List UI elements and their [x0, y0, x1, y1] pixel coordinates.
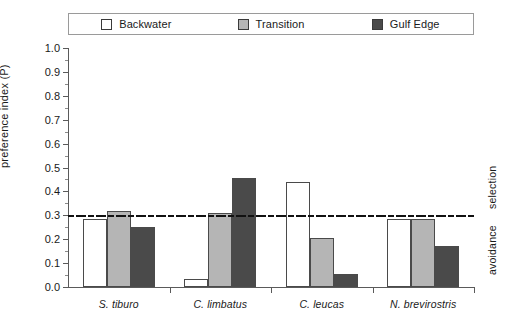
bar-group — [373, 48, 475, 287]
y-tick-major — [63, 287, 68, 288]
legend-item-transition: Transition — [204, 18, 339, 30]
bar-group — [271, 48, 373, 287]
annotation-avoidance: avoidance — [486, 226, 498, 276]
bar-transition — [310, 238, 334, 287]
bar-gulf-edge — [131, 227, 155, 287]
legend-label-gulf-edge: Gulf Edge — [390, 18, 440, 30]
bar-gulf-edge — [334, 274, 358, 287]
y-tick-label: 0.4 — [45, 185, 60, 197]
y-tick-label: 1.0 — [45, 42, 60, 54]
bar-backwater — [184, 279, 208, 287]
annotation-selection: selection — [486, 166, 498, 209]
legend-label-transition: Transition — [256, 18, 305, 30]
bar-group — [170, 48, 272, 287]
y-tick-label: 0.2 — [45, 233, 60, 245]
x-axis-group-label: N. brevirostris — [390, 298, 456, 310]
x-tick — [474, 288, 475, 293]
legend-item-backwater: Backwater — [69, 18, 204, 30]
chart-legend: Backwater Transition Gulf Edge — [68, 13, 474, 35]
y-tick-label: 0.6 — [45, 138, 60, 150]
x-tick — [271, 288, 272, 293]
y-axis-title: preference index (P) — [0, 64, 10, 168]
reference-line-dots — [68, 215, 474, 217]
legend-swatch-transition — [238, 19, 249, 30]
y-tick-label: 0.7 — [45, 114, 60, 126]
y-tick-label: 0.9 — [45, 66, 60, 78]
legend-swatch-gulf-edge — [372, 19, 383, 30]
x-tick — [170, 288, 171, 293]
x-axis-group-label: C. limbatus — [193, 298, 247, 310]
bar-gulf-edge — [435, 246, 459, 287]
legend-label-backwater: Backwater — [119, 18, 171, 30]
bar-transition — [107, 211, 131, 287]
bar-group — [68, 48, 170, 287]
y-tick-label: 0.1 — [45, 257, 60, 269]
bar-backwater — [286, 182, 310, 287]
bar-gulf-edge — [232, 178, 256, 287]
y-tick-label: 0.3 — [45, 209, 60, 221]
x-axis-group-label: S. tiburo — [99, 298, 139, 310]
bar-backwater — [387, 219, 411, 287]
y-tick-label: 0.8 — [45, 90, 60, 102]
plot-area: 0.00.10.20.30.40.50.60.70.80.91.0 — [68, 48, 474, 287]
y-tick-label: 0.5 — [45, 162, 60, 174]
legend-item-gulf-edge: Gulf Edge — [338, 18, 473, 30]
x-axis-group-label: C. leucas — [299, 298, 344, 310]
bar-transition — [208, 213, 232, 287]
legend-swatch-backwater — [101, 19, 112, 30]
y-tick-label: 0.0 — [45, 281, 60, 293]
x-tick — [373, 288, 374, 293]
bar-transition — [411, 219, 435, 287]
bar-backwater — [83, 219, 107, 287]
